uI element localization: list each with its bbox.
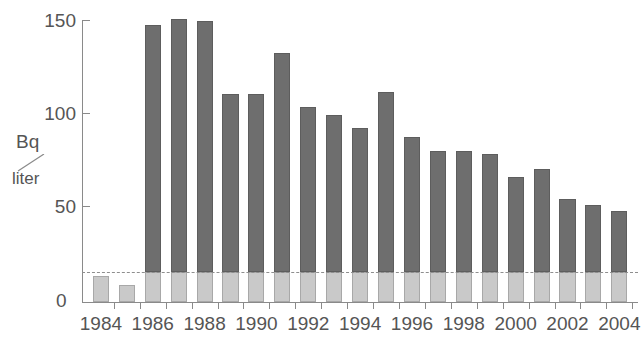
- bar-segment-total-1991: [274, 53, 290, 272]
- bar-2000: [508, 178, 524, 302]
- bar-segment-background-1991: [274, 272, 290, 302]
- bar-1987: [171, 20, 187, 302]
- x-tick-1995: [399, 303, 400, 309]
- bar-segment-total-1986: [145, 25, 161, 272]
- y-axis-unit-label: Bq liter: [8, 132, 80, 194]
- x-label-1984: 1984: [80, 313, 122, 335]
- bar-1986: [145, 26, 161, 302]
- bar-segment-total-1995: [378, 92, 394, 272]
- plot-area: [82, 10, 638, 302]
- bar-1992: [300, 108, 316, 302]
- bar-2002: [559, 200, 575, 302]
- x-label-2004: 2004: [598, 313, 640, 335]
- x-tick-1986: [166, 303, 167, 309]
- x-tick-1998: [477, 303, 478, 309]
- bar-segment-background-1992: [300, 272, 316, 302]
- bar-segment-background-1993: [326, 272, 342, 302]
- x-label-2000: 2000: [495, 313, 537, 335]
- bar-segment-background-1985: [119, 285, 135, 302]
- bar-segment-background-1987: [171, 272, 187, 302]
- bar-segment-total-2003: [585, 205, 601, 272]
- bar-segment-background-1990: [248, 272, 264, 302]
- bar-segment-background-1988: [197, 272, 213, 302]
- x-tick-1987: [192, 303, 193, 309]
- y-tick-label-100: 100: [30, 104, 76, 123]
- bar-1984: [93, 276, 109, 302]
- bar-segment-total-1992: [300, 107, 316, 272]
- x-tick-1984: [114, 303, 115, 309]
- bar-segment-total-2001: [534, 169, 550, 272]
- y-tick-label-150: 150: [30, 11, 76, 30]
- bar-chart: 150 100 50 0 Bq liter 198419861988199019…: [0, 0, 641, 342]
- bar-segment-background-2001: [534, 272, 550, 302]
- bar-1993: [326, 116, 342, 302]
- x-label-1996: 1996: [391, 313, 433, 335]
- bar-1994: [352, 129, 368, 302]
- bar-1991: [274, 54, 290, 302]
- bar-segment-background-1995: [378, 272, 394, 302]
- x-tick-2003: [606, 303, 607, 309]
- bar-segment-total-1990: [248, 94, 264, 272]
- bar-2001: [534, 170, 550, 302]
- bar-segment-total-2004: [611, 211, 627, 272]
- x-tick-1993: [347, 303, 348, 309]
- bar-segment-background-2002: [559, 272, 575, 302]
- x-tick-1991: [295, 303, 296, 309]
- bar-segment-total-1999: [482, 154, 498, 272]
- bar-segment-total-1996: [404, 137, 420, 271]
- bar-1995: [378, 93, 394, 302]
- bar-segment-total-1994: [352, 128, 368, 272]
- x-label-1992: 1992: [287, 313, 329, 335]
- bar-segment-background-2003: [585, 272, 601, 302]
- bar-2003: [585, 206, 601, 302]
- y-axis-unit-denominator: liter: [12, 170, 39, 187]
- x-tick-1997: [451, 303, 452, 309]
- x-tick-2001: [555, 303, 556, 309]
- y-tick-label-0: 0: [56, 291, 67, 310]
- bar-segment-total-1993: [326, 115, 342, 272]
- bar-1996: [404, 138, 420, 302]
- reference-line: [82, 272, 638, 273]
- x-label-2002: 2002: [546, 313, 588, 335]
- bar-segment-background-1989: [222, 272, 238, 302]
- bar-segment-background-1998: [456, 272, 472, 302]
- bar-segment-background-1984: [93, 276, 109, 302]
- bar-2004: [611, 212, 627, 302]
- bar-1999: [482, 155, 498, 302]
- x-tick-1992: [321, 303, 322, 309]
- bar-segment-total-2002: [559, 199, 575, 271]
- bar-segment-background-1986: [145, 272, 161, 302]
- y-tick-label-50: 50: [30, 197, 76, 216]
- x-tick-1996: [425, 303, 426, 309]
- x-tick-1994: [373, 303, 374, 309]
- y-tick-label-100-wrap: 100: [26, 104, 76, 123]
- bar-segment-background-2000: [508, 272, 524, 302]
- bar-1988: [197, 22, 213, 302]
- bar-segment-background-1994: [352, 272, 368, 302]
- x-label-1994: 1994: [339, 313, 381, 335]
- x-tick-2000: [529, 303, 530, 309]
- bar-segment-total-2000: [508, 177, 524, 272]
- bar-segment-background-1996: [404, 272, 420, 302]
- x-label-1986: 1986: [132, 313, 174, 335]
- bar-segment-total-1998: [456, 151, 472, 272]
- x-label-1990: 1990: [235, 313, 277, 335]
- x-tick-1990: [269, 303, 270, 309]
- x-label-1998: 1998: [443, 313, 485, 335]
- bar-segment-background-2004: [611, 272, 627, 302]
- x-tick-2002: [580, 303, 581, 309]
- y-axis-unit-numerator: Bq: [16, 132, 39, 151]
- bar-1998: [456, 152, 472, 302]
- x-tick-2004: [632, 303, 633, 309]
- bar-segment-background-1997: [430, 272, 446, 302]
- bar-1997: [430, 152, 446, 302]
- bar-segment-total-1989: [222, 94, 238, 272]
- bar-1985: [119, 285, 135, 302]
- bar-segment-total-1997: [430, 151, 446, 272]
- bar-segment-total-1988: [197, 21, 213, 272]
- x-label-1988: 1988: [183, 313, 225, 335]
- y-tick-label-150-wrap: 150: [26, 11, 76, 30]
- x-tick-1999: [503, 303, 504, 309]
- x-tick-1989: [243, 303, 244, 309]
- bar-segment-total-1987: [171, 19, 187, 272]
